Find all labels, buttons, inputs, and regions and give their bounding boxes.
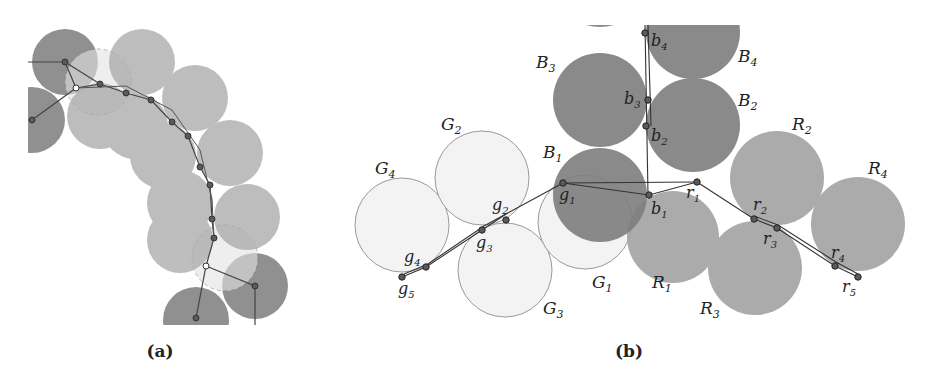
- node: [148, 97, 154, 103]
- node: [29, 117, 35, 123]
- node: [252, 283, 258, 289]
- label-r5: r5: [842, 277, 856, 298]
- disk: [214, 184, 280, 250]
- node-g2: [503, 217, 509, 223]
- caption-a: (a): [146, 341, 173, 361]
- figure-canvas: (a): [0, 0, 936, 388]
- disk-B2: [646, 78, 740, 172]
- node-g4: [423, 264, 429, 270]
- node-r5: [855, 274, 861, 280]
- junction-node: [73, 85, 79, 91]
- node-r1: [694, 179, 700, 185]
- node-b1: [646, 192, 652, 198]
- node-r4: [832, 263, 838, 269]
- node-b3: [645, 97, 651, 103]
- node: [62, 59, 68, 65]
- node-b4: [642, 30, 648, 36]
- disk-B-top: [553, 0, 647, 27]
- label-g5: g5: [398, 279, 415, 300]
- label-R3: R3: [699, 298, 720, 321]
- label-B3: B3: [535, 52, 556, 75]
- disk-G4: [355, 178, 449, 272]
- node-r3: [774, 225, 780, 231]
- label-G1: G1: [592, 272, 613, 295]
- label-G4: G4: [375, 158, 396, 181]
- label-r1: r1: [686, 183, 700, 204]
- junction-node: [203, 263, 209, 269]
- disk-R4: [811, 177, 905, 271]
- panel-a: [0, 29, 288, 353]
- disk: [147, 207, 213, 273]
- node: [197, 164, 203, 170]
- node: [193, 315, 199, 321]
- label-G2: G2: [441, 114, 462, 137]
- node: [97, 81, 103, 87]
- disk-G2: [435, 131, 529, 225]
- caption-b: (b): [615, 341, 643, 361]
- node-b2: [643, 123, 649, 129]
- label-R2: R2: [791, 114, 812, 137]
- label-B1: B1: [542, 142, 563, 165]
- label-G3: G3: [543, 298, 564, 321]
- node: [209, 216, 215, 222]
- node: [169, 119, 175, 125]
- node: [123, 90, 129, 96]
- label-R4: R4: [867, 158, 888, 181]
- node-r2: [751, 216, 757, 222]
- disk: [197, 120, 263, 186]
- node: [211, 235, 217, 241]
- label-B4: B4: [737, 46, 758, 69]
- panel-b: [355, 0, 905, 317]
- disk-R2: [730, 131, 824, 225]
- label-B2: B2: [737, 90, 758, 113]
- node: [207, 182, 213, 188]
- node: [185, 133, 191, 139]
